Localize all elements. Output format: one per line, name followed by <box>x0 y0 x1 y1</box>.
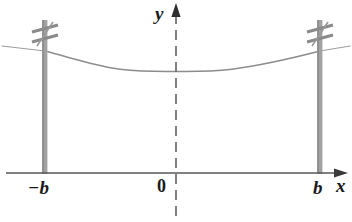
x-tick-label-positive-b: b <box>313 178 323 197</box>
left-pole-mast-shading <box>42 20 44 174</box>
x-axis-label: x <box>336 176 346 195</box>
cable-left-overhang <box>2 46 45 51</box>
origin-label: 0 <box>157 177 166 195</box>
y-axis-label: y <box>155 4 163 23</box>
y-axis-group <box>171 3 180 222</box>
left-pole-group <box>32 20 58 174</box>
x-tick-label-negative-b: −b <box>28 178 49 197</box>
right-pole-group <box>307 20 333 174</box>
catenary-figure: y x −b b 0 <box>0 0 352 222</box>
y-axis-arrowhead <box>171 3 180 17</box>
cable-span <box>45 51 320 71</box>
right-pole-mast-shading <box>317 20 319 174</box>
x-axis-group <box>6 168 348 177</box>
figure-canvas <box>0 0 352 222</box>
cable-right-overhang <box>320 46 350 51</box>
